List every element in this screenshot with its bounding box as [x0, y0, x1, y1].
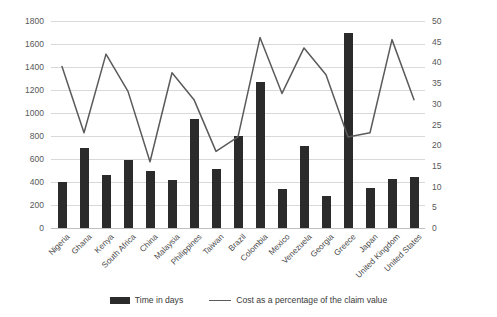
line-series-cost-percentage	[51, 21, 425, 228]
gridline	[51, 228, 425, 229]
legend-label-time-in-days: Time in days	[135, 295, 183, 305]
x-axis-category-labels: NigeriaGhanaKenyaSouth AfricaChinaMalays…	[51, 230, 425, 290]
y-right-tick-label: 30	[432, 100, 462, 109]
chart-legend: Time in days Cost as a percentage of the…	[0, 295, 497, 305]
legend-item-cost-percentage: Cost as a percentage of the claim value	[209, 295, 387, 305]
y-right-tick-label: 25	[432, 120, 462, 129]
x-tick-label-ghana: Ghana	[71, 233, 94, 256]
y-right-tick-label: 15	[432, 162, 462, 171]
x-tick-label-greece: Greece	[333, 233, 358, 258]
cost-line-path	[51, 21, 425, 228]
y-right-tick-label: 50	[432, 17, 462, 26]
y-right-tick-label: 5	[432, 203, 462, 212]
x-tick-label-georgia: Georgia	[309, 233, 335, 259]
line-swatch-icon	[209, 300, 231, 301]
legend-label-cost-percentage: Cost as a percentage of the claim value	[236, 295, 387, 305]
legend-item-time-in-days: Time in days	[110, 295, 183, 305]
chart-container: 020040060080010001200140016001800 051015…	[0, 0, 497, 317]
y-right-tick-label: 35	[432, 79, 462, 88]
y-right-tick-label: 10	[432, 182, 462, 191]
y-right-tick-label: 45	[432, 37, 462, 46]
y-right-tick-label: 40	[432, 58, 462, 67]
plot-area	[51, 21, 425, 228]
x-tick-label-nigeria: Nigeria	[48, 233, 72, 257]
y-right-tick-label: 0	[432, 224, 462, 233]
y-right-tick-label: 20	[432, 141, 462, 150]
x-tick-label-taiwan: Taiwan	[202, 233, 226, 257]
bar-swatch-icon	[110, 297, 130, 304]
